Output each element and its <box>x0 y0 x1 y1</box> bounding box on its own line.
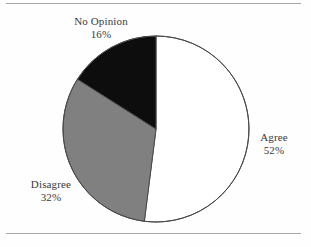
pie-chart-graphic <box>0 0 311 247</box>
pie-label-agree: Agree 52% <box>246 131 302 157</box>
pie-label-no-opinion-name: No Opinion <box>60 15 142 28</box>
pie-label-disagree: Disagree 32% <box>12 178 90 204</box>
pie-label-no-opinion-value: 16% <box>60 28 142 41</box>
pie-label-no-opinion: No Opinion 16% <box>60 15 142 41</box>
pie-label-agree-value: 52% <box>246 144 302 157</box>
pie-slice-group <box>63 36 249 222</box>
pie-label-disagree-name: Disagree <box>12 178 90 191</box>
pie-slice-agree <box>144 36 249 222</box>
bottom-divider-rule <box>6 233 301 234</box>
pie-label-agree-name: Agree <box>246 131 302 144</box>
pie-chart-figure: No Opinion 16% Agree 52% Disagree 32% <box>0 0 311 247</box>
pie-svg <box>0 0 311 247</box>
pie-label-disagree-value: 32% <box>12 191 90 204</box>
